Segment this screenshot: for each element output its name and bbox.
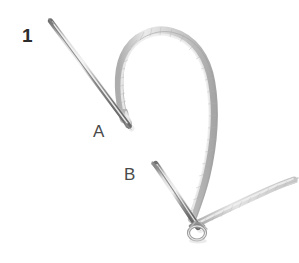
point-b-label: B [124,166,135,183]
point-a-label: A [93,123,104,140]
step-number-label: 1 [22,26,33,45]
needle-b [151,161,201,231]
figure-illustration: 1 A B [0,0,299,263]
thread-tail [196,178,298,225]
illustration-canvas [0,0,299,263]
